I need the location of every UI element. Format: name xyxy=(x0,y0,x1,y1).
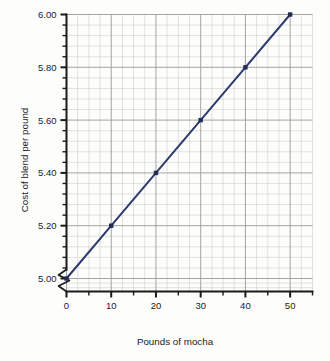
y-tick-label: 6.00 xyxy=(38,9,57,20)
x-tick-label: 0 xyxy=(64,300,69,311)
data-point-marker xyxy=(154,171,158,175)
data-point-marker xyxy=(64,276,68,280)
x-tick-label: 30 xyxy=(195,300,206,311)
y-tick-label: 5.20 xyxy=(38,220,57,231)
x-tick-label: 10 xyxy=(106,300,117,311)
data-point-marker xyxy=(243,65,247,69)
y-axis-title: Cost of blend per pound xyxy=(19,108,30,213)
plot-background xyxy=(0,0,330,361)
x-tick-label: 50 xyxy=(285,300,296,311)
line-chart: 01020304050 5.005.205.405.605.806.00 Pou… xyxy=(0,0,330,361)
x-tick-label: 20 xyxy=(151,300,162,311)
chart-figure: 01020304050 5.005.205.405.605.806.00 Pou… xyxy=(0,0,330,361)
y-tick-label: 5.60 xyxy=(38,115,57,126)
x-axis-title: Pounds of mocha xyxy=(137,336,214,347)
data-point-marker xyxy=(198,118,202,122)
y-tick-label: 5.00 xyxy=(38,273,57,284)
y-tick-label: 5.80 xyxy=(38,62,57,73)
x-tick-label: 40 xyxy=(240,300,251,311)
data-point-marker xyxy=(288,12,292,16)
data-point-marker xyxy=(109,224,113,228)
y-tick-label: 5.40 xyxy=(38,167,57,178)
